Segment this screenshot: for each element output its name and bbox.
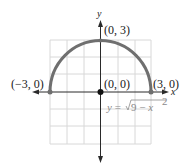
point-left <box>48 90 53 95</box>
point-left-label: (−3, 0) <box>11 77 44 91</box>
point-top-label: (0, 3) <box>104 23 130 37</box>
point-right-label: (3, 0) <box>153 77 179 91</box>
equation-label: y = 9 − x 2 <box>106 95 168 113</box>
svg-text:2: 2 <box>162 95 168 107</box>
y-axis-up-arrow-icon <box>98 20 103 27</box>
svg-text:9 − x: 9 − x <box>131 101 153 113</box>
y-axis-label: y <box>96 8 102 19</box>
point-origin <box>98 89 104 95</box>
point-origin-label: (0, 0) <box>104 77 130 91</box>
semicircle-graph: y x (0, 3) (−3, 0) (0, 0) (3, 0) y = 9 −… <box>0 0 192 166</box>
svg-text:y =: y = <box>106 101 121 113</box>
y-axis-down-arrow-icon <box>98 156 103 163</box>
point-top <box>99 39 103 43</box>
